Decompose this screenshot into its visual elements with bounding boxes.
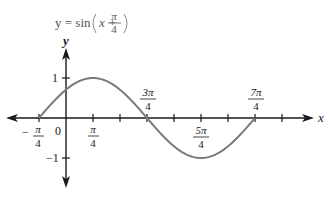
svg-text:7π: 7π bbox=[250, 86, 262, 98]
title-frac-num: π bbox=[111, 10, 117, 22]
label-zero: 0 bbox=[55, 124, 61, 138]
x-axis-label: x bbox=[317, 110, 324, 125]
svg-text:4: 4 bbox=[90, 137, 96, 149]
label-y-neg-one: −1 bbox=[46, 151, 59, 165]
sine-graph: y = sin x + π 4 x y bbox=[0, 0, 329, 201]
svg-text:3π: 3π bbox=[141, 86, 154, 98]
svg-text:4: 4 bbox=[35, 137, 41, 149]
label-y-one: 1 bbox=[52, 71, 58, 85]
svg-text:−: − bbox=[22, 125, 29, 139]
svg-text:4: 4 bbox=[145, 100, 151, 112]
chart-title: y = sin x + π 4 bbox=[55, 10, 127, 35]
label-5pi-over-4: 5π 4 bbox=[193, 124, 209, 150]
right-paren bbox=[124, 14, 127, 33]
label-pi-over-4: π 4 bbox=[88, 123, 99, 149]
title-frac-den: 4 bbox=[111, 23, 117, 35]
label-7pi-over-4: 7π 4 bbox=[248, 86, 264, 112]
y-axis: y bbox=[61, 33, 70, 188]
svg-text:4: 4 bbox=[198, 138, 204, 150]
y-axis-label: y bbox=[61, 33, 69, 48]
title-lhs: y = sin bbox=[55, 15, 91, 30]
label-neg-pi-over-4: − π 4 bbox=[22, 123, 44, 149]
svg-text:π: π bbox=[35, 123, 41, 135]
svg-text:5π: 5π bbox=[195, 124, 207, 136]
x-axis: x bbox=[6, 110, 324, 125]
left-paren bbox=[93, 14, 96, 33]
svg-text:4: 4 bbox=[253, 100, 259, 112]
svg-text:π: π bbox=[90, 123, 96, 135]
label-3pi-over-4: 3π 4 bbox=[140, 86, 156, 112]
